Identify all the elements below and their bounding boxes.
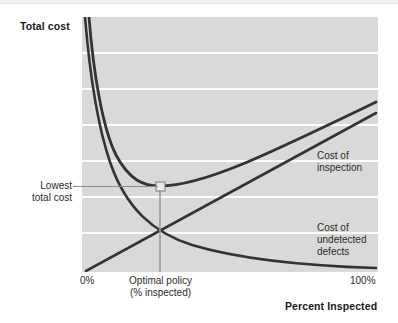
annotation-cost-of-undetected-defects: Cost of undetected defects xyxy=(317,222,367,258)
x-tick-label-0: 0% xyxy=(80,275,94,286)
annotation-cost-of-inspection-line1: Cost of xyxy=(317,150,362,162)
top-divider xyxy=(0,0,398,4)
annotation-optimal-policy-line2: (% inspected) xyxy=(103,287,218,299)
annotation-lowest-total-cost-line1: Lowest xyxy=(20,180,72,192)
x-tick-label-100: 100% xyxy=(350,275,376,286)
x-axis-title: Percent Inspected xyxy=(285,300,377,312)
annotation-optimal-policy: Optimal policy (% inspected) xyxy=(103,275,218,299)
annotation-lowest-total-cost: Lowest total cost xyxy=(20,180,72,204)
annotation-cost-of-undetected-line2: undetected xyxy=(317,234,367,246)
annotation-cost-of-undetected-line1: Cost of xyxy=(317,222,367,234)
annotation-cost-of-undetected-line3: defects xyxy=(317,246,367,258)
gridlines xyxy=(82,53,378,233)
annotation-cost-of-inspection: Cost of inspection xyxy=(317,150,362,174)
annotation-optimal-policy-line1: Optimal policy xyxy=(103,275,218,287)
y-axis-title: Total cost xyxy=(20,20,70,32)
lowest-total-cost-leader-line xyxy=(73,186,158,187)
annotation-lowest-total-cost-line2: total cost xyxy=(20,192,72,204)
annotation-cost-of-inspection-line2: inspection xyxy=(317,162,362,174)
chart-figure: Total cost Percent Inspected 0% 100% Low… xyxy=(0,0,398,323)
